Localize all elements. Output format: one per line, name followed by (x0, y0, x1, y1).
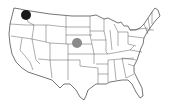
marker-washington[interactable] (21, 10, 31, 20)
marker-nebraska[interactable] (72, 38, 82, 48)
us-map (0, 0, 171, 105)
